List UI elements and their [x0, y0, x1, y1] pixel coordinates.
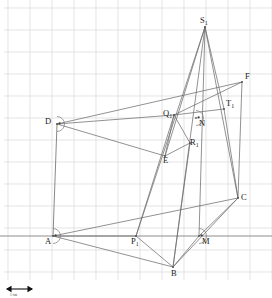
segment-D-Q1: [57, 115, 174, 124]
vertex-F: [241, 81, 243, 83]
segment-A-C: [53, 198, 238, 236]
segment-T1-Q1: [174, 109, 224, 115]
geometry-figure: S1FT1Q1NDR1ECAP1MB 1 cm: [0, 0, 272, 298]
label-N: N: [199, 118, 205, 128]
segment-M-C: [199, 198, 238, 236]
right-angle-marker-a-dot-icon: [54, 234, 56, 236]
label-B: B: [171, 268, 177, 278]
right-angle-marker-d-dot-icon: [58, 122, 60, 124]
vertex-D: [56, 123, 58, 125]
label-Q1: Q1: [163, 108, 172, 119]
vertex-Q1: [173, 114, 175, 116]
segment-S1-C: [205, 27, 238, 198]
label-R1: R1: [190, 137, 199, 148]
label-S1: S1: [200, 15, 208, 26]
right-angle-marker-layer: [53, 111, 206, 244]
figure-canvas: S1FT1Q1NDR1ECAP1MB 1 cm: [0, 0, 272, 298]
label-T1: T1: [226, 98, 234, 109]
label-D: D: [45, 116, 51, 126]
vertex-N: [195, 117, 197, 119]
label-F: F: [245, 71, 250, 81]
point-label-layer: S1FT1Q1NDR1ECAP1MB: [45, 15, 250, 278]
segment-Q1-E: [165, 115, 174, 156]
scale-bar: 1 cm: [7, 287, 32, 297]
label-A: A: [45, 236, 52, 246]
edge-layer: [0, 27, 272, 267]
scale-arrow-right-icon: [28, 287, 32, 292]
scale-label: 1 cm: [10, 293, 17, 297]
segment-B-R1: [173, 143, 190, 267]
vertex-C: [237, 197, 239, 199]
label-E: E: [163, 155, 168, 165]
vertex-M: [198, 235, 200, 237]
vertex-A: [52, 235, 54, 237]
segment-S1-T1: [205, 27, 224, 109]
vertex-T1: [223, 108, 225, 110]
segment-Q1-R1: [174, 115, 190, 143]
label-M: M: [202, 236, 210, 246]
segment-D-A: [53, 124, 57, 236]
scale-arrow-left-icon: [7, 287, 11, 292]
segment-T1-C: [224, 109, 238, 198]
label-C: C: [241, 192, 247, 202]
segment-P1-Q1: [136, 115, 174, 236]
